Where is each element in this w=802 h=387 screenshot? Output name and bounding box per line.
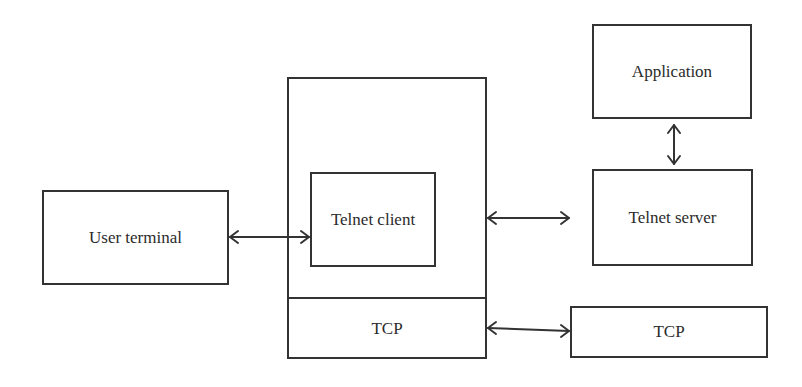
arrow-client-telnet-server (488, 212, 569, 224)
application-box: Application (592, 24, 752, 119)
user-terminal-box: User terminal (42, 190, 229, 285)
application-label: Application (632, 62, 712, 82)
telnet-server-box: Telnet server (592, 169, 753, 266)
server-tcp-box: TCP (570, 306, 768, 358)
server-tcp-label: TCP (653, 322, 684, 342)
user-terminal-label: User terminal (89, 228, 182, 248)
telnet-client-label: Telnet client (331, 210, 415, 230)
client-tcp-label: TCP (371, 319, 402, 339)
telnet-client-box: Telnet client (310, 172, 436, 267)
arrow-tcp-tcp (488, 322, 569, 337)
client-tcp-box: TCP (287, 298, 487, 359)
telnet-server-label: Telnet server (628, 208, 716, 228)
arrow-application-telnet-server (668, 125, 680, 164)
